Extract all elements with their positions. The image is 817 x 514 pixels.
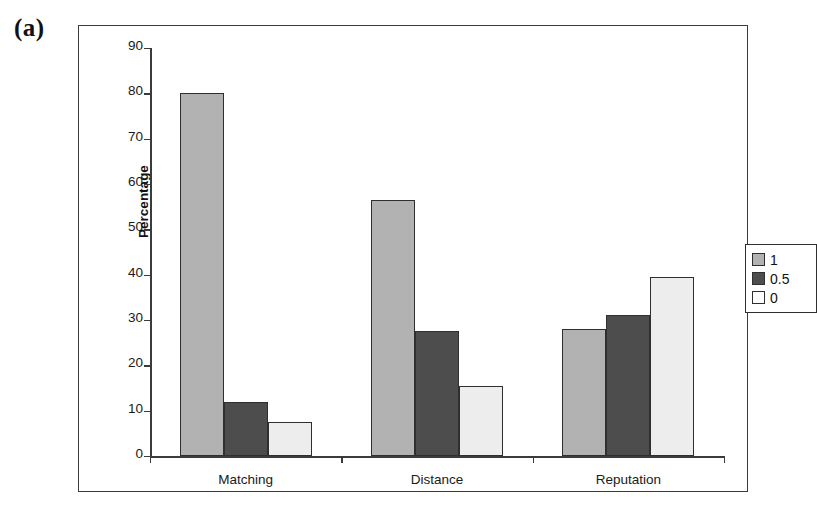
y-axis-tick-label: 80 <box>128 83 143 98</box>
bar <box>180 93 224 456</box>
y-axis-tick-label: 40 <box>128 265 143 280</box>
x-axis-tick-mark <box>341 456 342 463</box>
legend-item[interactable]: 0.5 <box>752 269 810 288</box>
x-axis-tick-mark <box>150 456 151 463</box>
chart-frame: Percentage 0102030405060708090 MatchingD… <box>78 25 748 492</box>
chart-legend: 1 0.5 0 <box>745 244 817 313</box>
x-axis-category-label: Distance <box>411 472 464 487</box>
y-axis-tick-label: 10 <box>128 401 143 416</box>
bars-layer <box>150 48 724 456</box>
x-axis-tick-mark <box>533 456 534 463</box>
bar <box>371 200 415 456</box>
legend-label: 0 <box>770 291 778 305</box>
legend-swatch-icon <box>752 291 765 304</box>
y-axis-tick-label: 70 <box>128 129 143 144</box>
y-axis-tick-label: 90 <box>128 38 143 53</box>
y-axis-tick-label: 0 <box>135 446 143 461</box>
x-axis-tick-mark <box>724 456 725 463</box>
legend-swatch-icon <box>752 253 765 266</box>
legend-swatch-icon <box>752 272 765 285</box>
y-axis-tick-label: 20 <box>128 355 143 370</box>
legend-item[interactable]: 1 <box>752 250 810 269</box>
legend-label: 1 <box>770 253 778 267</box>
bar <box>459 386 503 456</box>
legend-label: 0.5 <box>770 272 789 286</box>
bar <box>224 402 268 456</box>
figure-label: (a) <box>14 14 45 42</box>
y-axis-tick-label: 30 <box>128 310 143 325</box>
legend-item[interactable]: 0 <box>752 288 810 307</box>
y-axis-title: Percentage <box>136 132 151 272</box>
x-axis-category-label: Matching <box>218 472 273 487</box>
bar <box>415 331 459 456</box>
y-axis-tick-label: 50 <box>128 219 143 234</box>
x-axis-line <box>150 456 724 458</box>
bar <box>606 315 650 456</box>
bar <box>562 329 606 456</box>
y-axis-tick-label: 60 <box>128 174 143 189</box>
plot-area: 0102030405060708090 MatchingDistanceRepu… <box>150 48 724 456</box>
bar <box>650 277 694 456</box>
x-axis-category-label: Reputation <box>596 472 661 487</box>
bar <box>268 422 312 456</box>
